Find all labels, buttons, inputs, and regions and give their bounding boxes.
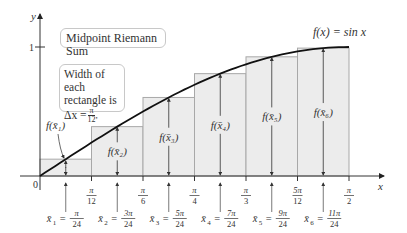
delta-den: 12 xyxy=(88,116,96,124)
midpoint-subscript: 1 xyxy=(53,219,57,227)
midpoint-num: 11π xyxy=(328,208,341,218)
y-axis-label: y xyxy=(30,10,36,22)
midpoint-den: 24 xyxy=(73,219,82,229)
midpoint-subscript: 5 xyxy=(259,219,263,227)
equals: = xyxy=(317,213,323,224)
x-tick-den: 3 xyxy=(244,196,248,206)
equals: = xyxy=(266,213,272,224)
midpoint-symbol: x̄ xyxy=(97,213,103,224)
midpoint-num: 5π xyxy=(175,208,184,218)
equals: = xyxy=(60,213,66,224)
function-label: f(x) = sin x xyxy=(313,25,367,39)
midpoint-num: π xyxy=(75,208,80,218)
width-note-line1: Width of each xyxy=(64,68,120,94)
height-label: f(x̄₃) xyxy=(159,131,178,144)
midpoint-num: 3π xyxy=(123,208,133,218)
midpoint-den: 24 xyxy=(279,219,288,229)
equals: = xyxy=(111,213,117,224)
height-label: f(x̄₅) xyxy=(262,110,281,123)
midpoint-subscript: 3 xyxy=(156,219,160,227)
delta-x: Δx = xyxy=(64,109,87,122)
x-tick-den: 12 xyxy=(87,196,96,206)
y-tick-label: 1 xyxy=(29,42,34,53)
x-tick-num: π xyxy=(141,185,146,195)
height-label-1: f(x̄₁) xyxy=(46,119,65,132)
height-label: f(x̄₆) xyxy=(314,106,333,119)
midpoint-den: 24 xyxy=(124,219,133,229)
midpoint-den: 24 xyxy=(330,219,339,229)
origin-label: 0 xyxy=(33,179,38,190)
x-axis-label: x xyxy=(377,180,383,192)
midpoint-subscript: 6 xyxy=(310,219,314,227)
midpoint-symbol: x̄ xyxy=(303,213,309,224)
height-label: f(x̄₂) xyxy=(108,145,127,158)
midpoint-den: 24 xyxy=(227,219,236,229)
height-label: f(x̄₄) xyxy=(211,119,230,132)
midpoint-den: 24 xyxy=(176,219,185,229)
midpoint-symbol: x̄ xyxy=(149,213,155,224)
title-box: Midpoint Riemann Sum xyxy=(60,28,166,48)
midpoint-subscript: 4 xyxy=(207,219,211,227)
x-tick-den: 4 xyxy=(192,196,197,206)
midpoint-num: 9π xyxy=(278,208,287,218)
midpoint-symbol: x̄ xyxy=(252,213,258,224)
midpoint-symbol: x̄ xyxy=(200,213,206,224)
midpoint-num: 7π xyxy=(227,208,236,218)
x-tick-num: 5π xyxy=(293,185,302,195)
x-tick-num: π xyxy=(192,185,197,195)
x-tick-den: 12 xyxy=(293,196,302,206)
midpoint-symbol: x̄ xyxy=(46,213,52,224)
callout-curve-1 xyxy=(58,134,64,158)
width-note-box: Width of each rectangle is Δx = π 12 , xyxy=(59,64,125,112)
x-tick-num: π xyxy=(89,185,94,195)
equals: = xyxy=(163,213,169,224)
width-note-formula: Δx = π 12 , xyxy=(64,107,120,124)
midpoint-subscript: 2 xyxy=(104,219,108,227)
x-tick-den: 6 xyxy=(141,196,145,206)
equals: = xyxy=(214,213,220,224)
x-tick-den: 2 xyxy=(347,196,351,206)
x-tick-num: π xyxy=(347,185,352,195)
x-tick-num: π xyxy=(244,185,249,195)
